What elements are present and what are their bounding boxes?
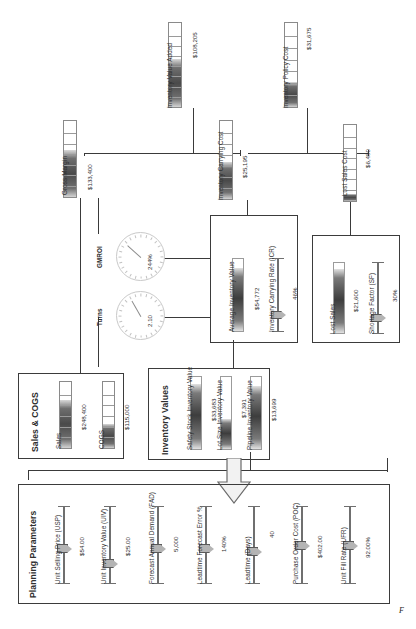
connector-ipc-down	[307, 108, 308, 154]
label-gmroi: GMROI	[96, 246, 103, 268]
gauge-tick	[125, 300, 127, 302]
label-inventory-value-added: Inventory Value Added	[166, 43, 173, 108]
label-unit-fill-rate: Unit Fill Rate (UFR)	[340, 527, 347, 584]
value-shortage-factor: 30%	[391, 290, 398, 302]
gauge-tick	[154, 241, 156, 243]
connector-gmroi-stem	[98, 198, 99, 234]
label-unit-selling-price: Unit Selling Price (USP)	[54, 515, 61, 584]
gauge-tick	[125, 329, 127, 331]
slider-thumb-point	[257, 548, 262, 556]
gauge-tick	[154, 270, 156, 272]
gauge-tick	[134, 275, 135, 278]
value-leadtime-days: 40	[268, 531, 275, 538]
connector-gm-up	[84, 153, 85, 156]
label-inventory-carrying-rate: Inventory Carrying Rate (ICR)	[268, 246, 275, 332]
gauge-tick	[129, 237, 131, 240]
gauge-tick	[157, 245, 160, 247]
gauge-tick	[157, 304, 160, 306]
gauge-tick	[145, 334, 146, 337]
slider-thumb-point	[161, 545, 166, 553]
value-unit-selling-price: $54.00	[78, 537, 85, 556]
gauge-tick	[140, 335, 141, 338]
value-average-inventory-value: $54,772	[253, 288, 260, 310]
slider-cap-top	[344, 506, 356, 507]
value-lost-sales: $21,600	[352, 290, 359, 312]
gauge-tick	[119, 320, 122, 321]
value-gross-margin: $133,400	[86, 164, 93, 190]
gauge-tick	[119, 250, 122, 251]
gauge-tick	[129, 332, 131, 335]
connector-lsc-down	[350, 202, 351, 235]
label-leadtime-forecast-error: Leadtime Forecast Error %	[196, 506, 203, 584]
slider-thumb-point	[67, 545, 72, 553]
value-inventory-policy-cost: $31,675	[305, 28, 312, 50]
gauge-tick	[125, 270, 127, 272]
value-inventory-carrying-cost: $25,195	[241, 156, 248, 178]
gauge-tick	[134, 294, 135, 297]
influence-diagram-canvas: Inventory Value Added $108,205 Inventory…	[0, 0, 416, 629]
slider-thumb-point	[353, 542, 358, 550]
gauge-tick	[160, 256, 163, 257]
gauge-tick	[145, 235, 146, 238]
label-cogs: COGS	[98, 430, 105, 449]
gauge-tick	[154, 329, 156, 331]
group-average-inventory-value	[210, 215, 298, 343]
label-inventory-carrying-cost: Inventory Carrying Cost	[217, 132, 224, 200]
slider-cap-top	[248, 506, 260, 507]
label-sales: Sales	[55, 433, 62, 449]
slider-track	[253, 506, 255, 584]
value-inventory-carrying-rate: 46%	[291, 288, 298, 300]
gauge-tick	[159, 261, 162, 262]
slider-track	[277, 258, 279, 332]
gauge-tick	[119, 309, 122, 310]
slider-thumb-point	[381, 314, 386, 322]
gauge-tick	[159, 320, 162, 321]
slider-cap-top	[104, 506, 116, 507]
connector-gm-down	[80, 198, 81, 373]
label-purchase-order-cost: Purchase Order Cost (POC)	[292, 503, 299, 584]
gauge-tick	[118, 256, 121, 257]
label-average-inventory-value: Average Inventory Value	[228, 261, 235, 332]
connector-ivadd-to-bus	[193, 108, 194, 154]
connector-params-right-riser	[387, 458, 388, 472]
gauge-tick	[129, 296, 131, 299]
value-pipeline-inventory-value: $13,699	[270, 399, 277, 421]
value-inventory-value-added: $108,205	[191, 32, 198, 58]
gauge-turns	[116, 291, 165, 340]
gauge-tick	[140, 234, 141, 237]
value-lost-sales-cost: $6,480	[364, 149, 371, 168]
gauge-tick	[150, 237, 152, 240]
label-leadtime-days: Leadtime (Days)	[244, 536, 251, 584]
gauge-tick	[159, 250, 162, 251]
title-inventory-values: Inventory Values	[160, 385, 170, 455]
label-pipeline-inventory-value: Pipeline Inventory Value	[246, 380, 253, 450]
slider-thumb-point	[281, 311, 286, 319]
connector-gmroi-to-aiv	[161, 258, 211, 259]
gauge-tick	[140, 276, 141, 279]
value-cogs: $115,000	[123, 405, 130, 430]
label-safety-stock-inventory-value: Safety Stock Inventory Value	[186, 367, 193, 450]
slider-cap-top	[58, 506, 70, 507]
gauge-tick	[150, 332, 152, 335]
gauge-tick	[118, 315, 121, 316]
connector-turns-to-aiv	[161, 317, 211, 318]
slider-thumb-point	[305, 542, 310, 550]
value-leadtime-forecast-error: 140%	[220, 536, 227, 552]
gauge-tick	[159, 309, 162, 310]
gauge-tick	[157, 266, 160, 268]
gauge-tick	[154, 300, 156, 302]
value-turns: 2.10	[146, 315, 153, 327]
gauge-needle	[131, 300, 141, 316]
gauge-needle	[127, 245, 141, 258]
value-unit-fill-rate: 92.00%	[364, 537, 371, 558]
slider-track	[377, 262, 379, 334]
gauge-tick	[121, 245, 124, 247]
figure-caption-mark: F	[399, 606, 404, 615]
gauge-tick	[150, 296, 152, 299]
gauge-tick	[121, 304, 124, 306]
label-lost-sales: Lost Sales	[329, 304, 336, 334]
gauge-tick	[150, 273, 152, 276]
label-gross-margin: Gross Margin	[61, 156, 68, 195]
gauge-tick	[160, 315, 163, 316]
value-forecast-annual-demand: 5,000	[172, 537, 179, 552]
